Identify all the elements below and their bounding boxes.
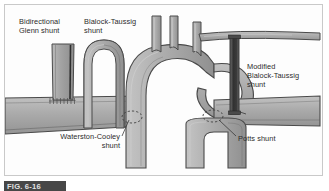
brachiocephalic-trunk <box>152 16 161 52</box>
label-potts-shunt: Potts shunt <box>238 134 276 143</box>
main-pulmonary-artery <box>186 118 246 168</box>
figure-container: Bidirectional Glenn shunt Blalock-Taussi… <box>0 0 329 191</box>
bidirectional-glenn-shunt <box>49 44 76 104</box>
figure-caption-bar: FIG. 6-16 <box>4 181 66 191</box>
figure-caption-id: FIG. 6-16 <box>7 182 41 191</box>
modified-blalock-taussig-shunt <box>229 35 241 115</box>
label-modified-blalock-taussig-shunt: Modified Blalock-Taussig shunt <box>247 62 299 90</box>
label-blalock-taussig-shunt: Blalock-Taussig shunt <box>84 17 136 35</box>
left-subclavian-artery <box>193 22 201 56</box>
label-waterston-cooley-shunt: Waterston-Cooley shunt <box>42 132 120 150</box>
label-bidirectional-glenn-shunt: Bidirectional Glenn shunt <box>19 17 60 35</box>
left-common-carotid-artery <box>170 16 178 50</box>
right-subclavian-artery <box>199 31 320 41</box>
